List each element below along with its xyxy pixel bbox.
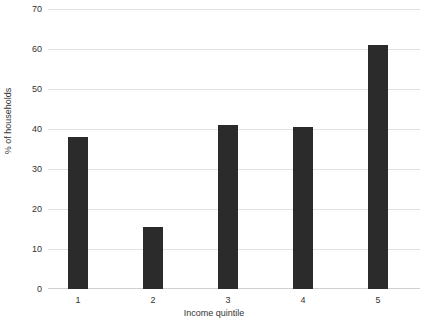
gridline <box>48 49 420 50</box>
y-tick-label: 30 <box>14 165 42 174</box>
x-axis-title: Income quintile <box>0 308 428 318</box>
x-tick-label: 1 <box>58 296 98 305</box>
x-tick-label: 4 <box>283 296 323 305</box>
x-tick-label: 5 <box>358 296 398 305</box>
bar-quintile-5 <box>368 45 388 289</box>
x-tick-label: 3 <box>208 296 248 305</box>
bar-quintile-2 <box>143 227 163 289</box>
y-tick-label: 50 <box>14 85 42 94</box>
y-tick-label: 70 <box>14 5 42 14</box>
y-axis-title: % of households <box>3 61 13 181</box>
gridline <box>48 89 420 90</box>
bar-chart: 70 60 50 40 30 20 10 0 % of households 1… <box>0 0 428 331</box>
plot-area <box>48 9 420 289</box>
bar-quintile-3 <box>218 125 238 289</box>
y-tick-label: 10 <box>14 245 42 254</box>
bar-quintile-1 <box>68 137 88 289</box>
gridline <box>48 9 420 10</box>
y-tick-label: 40 <box>14 125 42 134</box>
bar-quintile-4 <box>293 127 313 289</box>
y-tick-label: 20 <box>14 205 42 214</box>
y-tick-label: 0 <box>14 285 42 294</box>
x-tick-label: 2 <box>133 296 173 305</box>
y-tick-label: 60 <box>14 45 42 54</box>
